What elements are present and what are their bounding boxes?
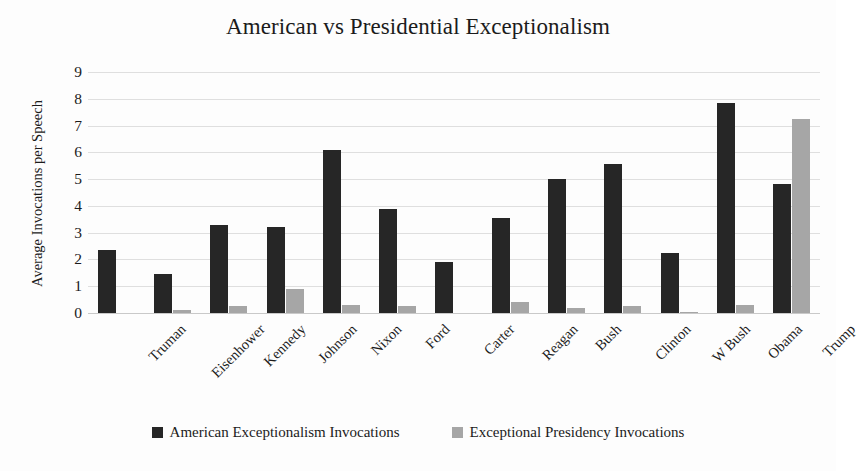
bar[interactable] [98,250,116,313]
bar-group[interactable] [144,72,200,313]
y-axis-tick-label: 4 [56,198,82,214]
bar[interactable] [717,103,735,313]
bar[interactable] [548,179,566,313]
legend-label: Exceptional Presidency Invocations [470,424,685,441]
bar-group[interactable] [257,72,313,313]
bar-group[interactable] [426,72,482,313]
bar[interactable] [623,306,641,313]
bar[interactable] [286,289,304,313]
bar[interactable] [210,225,228,313]
y-axis-tick-labels: 9876543210 [56,60,82,325]
bar[interactable] [492,218,510,313]
x-axis-tick-label: Bush [591,321,624,354]
bar[interactable] [511,302,529,313]
bar[interactable] [736,305,754,313]
x-axis-tick-label: Ford [422,321,453,352]
bar-group[interactable] [370,72,426,313]
chart-title: American vs Presidential Exceptionalism [0,14,836,40]
bar-group[interactable] [88,72,144,313]
bar[interactable] [661,253,679,313]
x-axis-tick-labels: TrumanEisenhowerKennedyJohnsonNixonFordC… [88,313,820,403]
y-axis-title: Average Invocations per Speech [29,64,46,324]
x-axis-tick-label: Johnson [315,321,361,367]
bar[interactable] [435,262,453,313]
x-axis-tick-label: Trump [819,321,859,361]
bar[interactable] [604,164,622,313]
bar[interactable] [379,209,397,313]
x-axis-tick-label: Obama [764,321,806,363]
y-axis-tick-label: 0 [56,305,82,321]
bar-group[interactable] [764,72,820,313]
bar[interactable] [398,306,416,313]
x-axis-tick-label: Clinton [652,321,695,364]
bar[interactable] [773,184,791,313]
legend-entry[interactable]: Exceptional Presidency Invocations [452,424,685,441]
bar[interactable] [154,274,172,313]
x-axis-tick-label: Truman [145,321,189,365]
x-axis-tick-label: Kennedy [260,321,309,370]
bar-group[interactable] [201,72,257,313]
x-axis-tick-label: Eisenhower [209,321,269,381]
legend-label: American Exceptionalism Invocations [170,424,400,441]
bar[interactable] [792,119,810,313]
x-axis-tick-label: W Bush [709,321,754,366]
bar[interactable] [229,306,247,313]
legend-swatch-icon [452,427,463,438]
bar-group[interactable] [707,72,763,313]
y-axis-tick-label: 8 [56,91,82,107]
bar-group[interactable] [313,72,369,313]
plot-area [88,72,820,313]
bar[interactable] [342,305,360,313]
bar-group[interactable] [538,72,594,313]
chart-legend: American Exceptionalism InvocationsExcep… [0,424,836,441]
bar[interactable] [267,227,285,313]
legend-swatch-icon [152,427,163,438]
y-axis-tick-label: 2 [56,251,82,267]
legend-entry[interactable]: American Exceptionalism Invocations [152,424,400,441]
bar-group[interactable] [595,72,651,313]
x-axis-tick-label: Reagan [539,321,582,364]
y-axis-tick-label: 1 [56,278,82,294]
x-axis-tick-label: Carter [481,321,519,359]
bar-group[interactable] [482,72,538,313]
y-axis-tick-label: 6 [56,144,82,160]
bar-group[interactable] [651,72,707,313]
x-axis-tick-label: Nixon [368,321,406,359]
y-axis-tick-label: 7 [56,118,82,134]
bar-series-layer [88,72,820,313]
y-axis-tick-label: 9 [56,64,82,80]
y-axis-tick-label: 5 [56,171,82,187]
bar[interactable] [323,150,341,313]
y-axis-tick-label: 3 [56,225,82,241]
